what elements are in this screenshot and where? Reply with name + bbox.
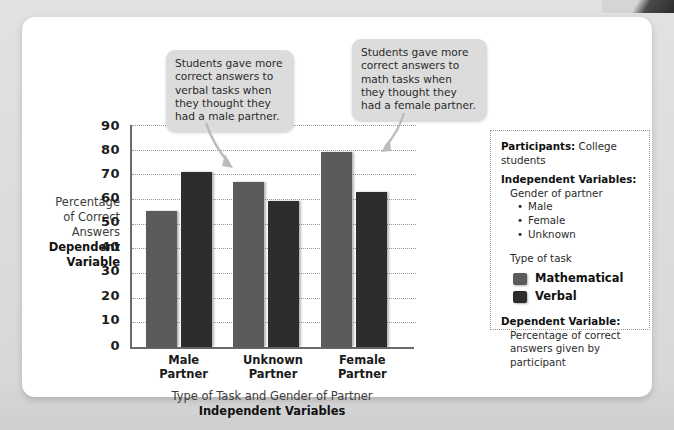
legend-label-mathematical: Mathematical — [535, 272, 623, 286]
x-axis-title-bold: Independent Variables — [122, 404, 422, 419]
dependent-variable-label: Dependent Variable: — [501, 315, 641, 329]
y-tick-30: 30 — [84, 263, 120, 278]
iv-bullet-female: Female — [517, 214, 641, 228]
participants-label: Participants: — [501, 140, 575, 152]
legend-swatch-verbal-icon — [513, 291, 527, 303]
dependent-variable-line-1: Percentage of correct — [501, 329, 641, 343]
y-tick-50: 50 — [84, 214, 120, 229]
bar-unknown-partner-mathematical[interactable] — [233, 182, 264, 347]
x-axis-title: Type of Task and Gender of Partner Indep… — [122, 389, 422, 419]
y-tick-80: 80 — [84, 142, 120, 157]
iv-bullet-unknown: Unknown — [517, 228, 641, 242]
bar-group-unknown-partner — [233, 182, 320, 347]
x-label-female-partner-line-2: Partner — [321, 367, 404, 381]
iv-bullet-male: Male — [517, 200, 641, 214]
dependent-variable-row: Dependent Variable: Percentage of correc… — [501, 315, 641, 369]
legend-swatch-mathematical-icon — [513, 273, 527, 285]
participants-row: Participants: College students — [501, 140, 641, 167]
x-label-unknown-partner: Unknown Partner — [231, 353, 320, 381]
bar-female-partner-verbal[interactable] — [356, 192, 387, 347]
callout-verbal-tasks: Students gave more correct answers to ve… — [166, 50, 294, 131]
x-axis-category-labels: Male Partner Unknown Partner Female Part… — [130, 353, 414, 381]
callout-math-tasks: Students gave more correct answers to ma… — [352, 39, 487, 120]
independent-variables-bullets: Male Female Unknown — [501, 200, 641, 241]
x-label-female-partner-line-1: Female — [321, 353, 404, 367]
bar-female-partner-mathematical[interactable] — [321, 152, 352, 347]
bar-group-female-partner — [321, 152, 408, 347]
bar-unknown-partner-verbal[interactable] — [268, 201, 299, 347]
legend-label-verbal: Verbal — [535, 290, 577, 304]
y-tick-60: 60 — [84, 190, 120, 205]
independent-variables-sub: Gender of partner — [501, 187, 641, 201]
y-tick-40: 40 — [84, 239, 120, 254]
legend-item-mathematical: Mathematical — [501, 272, 641, 286]
callout-math-arrow-icon — [374, 111, 414, 155]
y-tick-90: 90 — [84, 118, 120, 133]
independent-variables-row: Independent Variables: Gender of partner… — [501, 173, 641, 266]
bar-male-partner-mathematical[interactable] — [146, 211, 177, 347]
independent-variables-label: Independent Variables: — [501, 173, 641, 187]
plot-area — [130, 125, 414, 349]
x-label-male-partner-line-1: Male Partner — [142, 353, 225, 381]
type-of-task-label: Type of task — [501, 252, 641, 266]
x-label-unknown-partner-line-1: Unknown — [231, 353, 314, 367]
x-label-female-partner: Female Partner — [321, 353, 410, 381]
dependent-variable-line-2: answers given by participant — [501, 342, 641, 369]
page-background: Percentage of Correct Answers Dependent … — [0, 0, 674, 430]
bar-container — [132, 125, 414, 347]
x-label-male-partner: Male Partner — [142, 353, 231, 381]
y-tick-0: 0 — [84, 338, 120, 353]
study-info-box: Participants: College students Independe… — [490, 130, 650, 330]
page-corner-mark — [602, 0, 674, 13]
bar-group-male-partner — [146, 172, 233, 347]
legend-item-verbal: Verbal — [501, 290, 641, 304]
y-tick-20: 20 — [84, 288, 120, 303]
bar-male-partner-verbal[interactable] — [181, 172, 212, 347]
figure-card: Percentage of Correct Answers Dependent … — [22, 17, 652, 397]
y-axis-title: Percentage of Correct Answers Dependent … — [42, 195, 120, 270]
x-axis-title-line-1: Type of Task and Gender of Partner — [122, 389, 422, 404]
x-label-unknown-partner-line-2: Partner — [231, 367, 314, 381]
y-tick-10: 10 — [84, 312, 120, 327]
callout-verbal-arrow-icon — [202, 121, 246, 173]
y-tick-70: 70 — [84, 166, 120, 181]
